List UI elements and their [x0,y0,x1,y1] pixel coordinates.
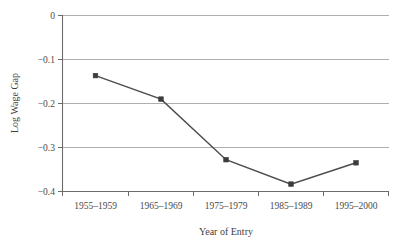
y-tick-label-2: −0.2 [38,99,55,109]
x-category-label-3: 1985–1989 [270,201,313,211]
data-point-1 [159,97,164,102]
y-axis-title: Log Wage Gap [9,73,20,133]
x-category-label-1: 1965–1969 [140,201,183,211]
chart-figure: 0 −0.1 −0.2 −0.3 −0.4 1955–1959 1965–196… [0,0,404,248]
y-tick-label-3: −0.3 [38,143,55,153]
y-tick-label-4: −0.4 [38,187,55,197]
data-point-0 [93,73,98,78]
x-axis-title: Year of Entry [199,226,253,237]
x-category-label-2: 1975–1979 [205,201,248,211]
y-tick-label-1: −0.1 [38,55,55,65]
data-point-4 [354,161,359,166]
line-chart: 0 −0.1 −0.2 −0.3 −0.4 1955–1959 1965–196… [0,0,404,248]
x-category-label-0: 1955–1959 [74,201,117,211]
data-point-2 [224,157,229,162]
y-tick-label-0: 0 [50,11,55,21]
x-category-label-4: 1995–2000 [335,201,378,211]
data-point-3 [289,182,294,187]
